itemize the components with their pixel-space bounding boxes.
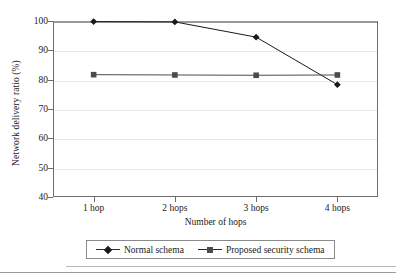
legend-label: Proposed security schema (226, 245, 325, 255)
x-tick-mark (94, 197, 95, 202)
legend-label: Normal schema (124, 245, 184, 255)
series-line (94, 75, 338, 76)
y-tick-label: 50 (8, 164, 48, 174)
x-tick-label: 4 hops (302, 203, 372, 213)
y-tick-mark (48, 197, 53, 198)
data-point-marker (172, 72, 178, 78)
x-tick-label: 2 hops (140, 203, 210, 213)
y-tick-label: 70 (8, 105, 48, 115)
data-point-marker (171, 18, 178, 25)
data-point-marker (90, 18, 97, 25)
y-tick-label: 80 (8, 76, 48, 86)
chart-legend: Normal schemaProposed security schema (86, 240, 335, 259)
page-rule-top (66, 266, 396, 267)
x-tick-mark (256, 197, 257, 202)
square-marker-icon (198, 245, 222, 255)
chart-figure: Network delivery ratio (%) 4050607080901… (0, 0, 396, 278)
data-point-marker (253, 34, 260, 41)
series-layer (53, 21, 378, 197)
x-tick-mark (337, 197, 338, 202)
y-tick-label: 90 (8, 46, 48, 56)
data-point-marker (91, 72, 97, 78)
legend-entry[interactable]: Normal schema (96, 245, 184, 255)
y-tick-label: 100 (8, 17, 48, 27)
legend-entry[interactable]: Proposed security schema (198, 245, 325, 255)
data-point-marker (253, 72, 259, 78)
data-point-marker (335, 72, 341, 78)
x-tick-label: 3 hops (221, 203, 291, 213)
x-tick-label: 1 hop (59, 203, 129, 213)
y-tick-label: 40 (8, 193, 48, 203)
diamond-marker-icon (96, 245, 120, 255)
x-axis-title: Number of hops (53, 217, 378, 227)
page-rule-bottom (0, 272, 396, 273)
y-tick-label: 60 (8, 134, 48, 144)
x-tick-mark (175, 197, 176, 202)
data-point-marker (334, 81, 341, 88)
